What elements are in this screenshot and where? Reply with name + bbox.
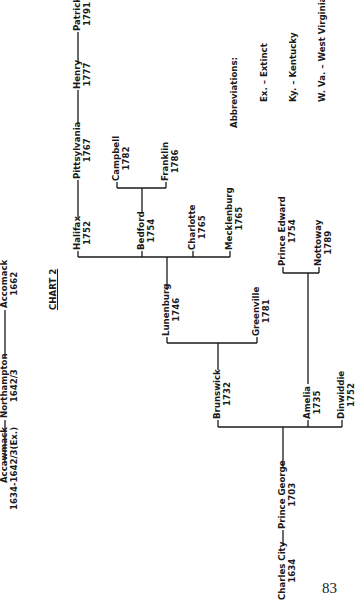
rotated-chart-page: Accawmack 1634-1642/3(Ex.) Northampton 1… (0, 0, 360, 610)
abbreviation-extinct: Ex. – Extinct (259, 43, 269, 102)
node-accawmack: Accawmack 1634-1642/3(Ex.) (0, 427, 19, 510)
node-lunenburg: Lunenburg 1746 (162, 284, 181, 336)
node-prince-edward: Prince Edward 1754 (278, 196, 297, 266)
node-bedford: Bedford 1754 (137, 211, 156, 250)
node-nottoway: Nottoway 1789 (314, 220, 333, 266)
abbreviations-title: Abbreviations: (229, 57, 239, 128)
node-prince-george: Prince George 1703 (278, 460, 297, 529)
node-campbell: Campbell 1782 (112, 136, 131, 181)
node-dinwiddie: Dinwiddie 1752 (337, 371, 356, 419)
node-halifax: Halifax 1752 (73, 216, 92, 250)
node-brunswick: Brunswick 1732 (213, 369, 232, 419)
node-patrick: Patrick 1791 (73, 0, 92, 31)
node-henry: Henry 1777 (73, 60, 92, 89)
node-charles-city: Charles City 1634 (278, 542, 297, 600)
node-northampton: Northampton 1642/3 (0, 353, 19, 418)
abbreviation-west-virginia: W. Va. – West Virginia (317, 0, 327, 102)
chart-title: CHART 2 (48, 269, 58, 310)
page-number: 83 (322, 580, 337, 597)
node-amelia: Amelia 1735 (303, 386, 322, 419)
node-franklin: Franklin 1786 (161, 142, 180, 181)
node-accomack: Accomack 1662 (0, 260, 19, 308)
node-mecklenburg: Mecklenburg 1765 (225, 187, 244, 250)
node-pittsylvania: Pittsylvania 1767 (73, 122, 92, 179)
node-greenville: Greenville 1781 (252, 287, 271, 336)
node-charlotte: Charlotte 1765 (188, 205, 207, 250)
abbreviation-kentucky: Ky. – Kentucky (288, 32, 298, 102)
